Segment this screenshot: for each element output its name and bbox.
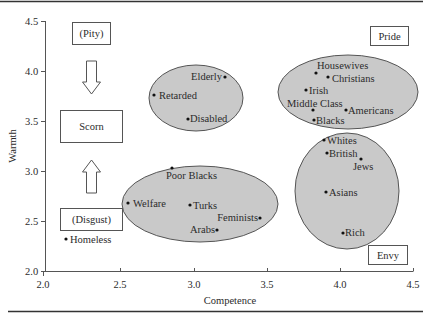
svg-text:Turks: Turks	[193, 200, 217, 211]
y-tick-4.0: 4.0	[25, 66, 38, 77]
x-tick-2.0: 2.0	[36, 279, 49, 290]
scorn-box-label: Scorn	[79, 121, 104, 132]
x-tick-3.0: 3.0	[187, 279, 200, 290]
point-british: British	[325, 148, 358, 159]
point-rich: Rich	[341, 227, 365, 238]
point-disabled: Disabled	[186, 113, 228, 124]
svg-text:Welfare: Welfare	[133, 198, 166, 209]
disgust-box: (Disgust)	[61, 209, 123, 231]
scorn-box: Scorn	[61, 111, 123, 143]
pride-box: Pride	[371, 27, 409, 46]
x-tick-4.5: 4.5	[406, 279, 419, 290]
svg-text:Irish: Irish	[309, 85, 329, 96]
point-blacks: Blacks	[312, 115, 344, 126]
point-irish: Irish	[304, 85, 329, 96]
y-axis-label: Warmth	[7, 128, 18, 162]
pity-box: (Pity)	[73, 23, 111, 45]
y-tick-2.5: 2.5	[25, 216, 38, 227]
y-tick-2.0: 2.0	[25, 266, 38, 277]
point-americans: Americans	[344, 105, 393, 116]
svg-text:Poor Blacks: Poor Blacks	[166, 170, 217, 181]
svg-text:Middle Class: Middle Class	[287, 98, 343, 109]
point-homeless: Homeless	[64, 234, 111, 245]
point-elderly: Elderly	[191, 71, 227, 82]
svg-text:Rich: Rich	[345, 227, 366, 238]
svg-text:Whites: Whites	[327, 135, 357, 146]
envy-box: Envy	[369, 246, 408, 265]
y-axis	[41, 21, 46, 272]
svg-text:Homeless: Homeless	[70, 234, 111, 245]
svg-text:Blacks: Blacks	[316, 115, 345, 126]
svg-text:Feminists: Feminists	[217, 212, 258, 223]
svg-text:Americans: Americans	[348, 105, 393, 116]
svg-text:Christians: Christians	[332, 73, 375, 84]
point-asians: Asians	[324, 187, 357, 198]
svg-text:Disabled: Disabled	[190, 113, 228, 124]
x-axis-label: Competence	[204, 295, 257, 306]
y-tick-4.5: 4.5	[25, 16, 38, 27]
point-arabs: Arabs	[190, 224, 219, 235]
arrow-up-icon	[83, 160, 101, 193]
svg-text:Elderly: Elderly	[191, 71, 223, 82]
x-axis	[43, 268, 414, 276]
svg-text:Asians: Asians	[329, 187, 358, 198]
x-tick-2.5: 2.5	[113, 279, 126, 290]
svg-text:Retarded: Retarded	[159, 90, 198, 101]
svg-text:Arabs: Arabs	[190, 224, 215, 235]
envy-box-label: Envy	[377, 250, 400, 261]
point-feminists: Feminists	[217, 212, 261, 223]
point-welfare: Welfare	[126, 198, 166, 209]
y-tick-3.5: 3.5	[25, 116, 38, 127]
point-retarded: Retarded	[152, 90, 197, 101]
pity-box-label: (Pity)	[80, 28, 104, 40]
point-turks: Turks	[188, 200, 217, 211]
y-tick-3.0: 3.0	[25, 166, 38, 177]
svg-text:British: British	[329, 148, 358, 159]
stereotype-content-chart: 4.5 4.0 3.5 3.0 2.5 2.0 2.0 2.5 3.0 3.5 …	[0, 0, 431, 325]
point-christians: Christians	[326, 73, 374, 84]
pride-box-label: Pride	[378, 31, 401, 42]
svg-text:Housewives: Housewives	[317, 60, 368, 71]
point-whites: Whites	[322, 135, 356, 146]
svg-text:Jews: Jews	[353, 161, 373, 172]
x-tick-4.0: 4.0	[333, 279, 346, 290]
x-tick-3.5: 3.5	[260, 279, 273, 290]
disgust-box-label: (Disgust)	[72, 214, 112, 226]
arrow-down-icon	[83, 61, 101, 94]
